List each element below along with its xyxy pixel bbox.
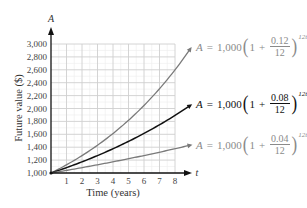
x-tick-label: 3 [95,176,100,186]
eq-fraction: 0.1212 [270,35,290,58]
eq-one: 1 [249,98,255,110]
eq-plus: + [259,139,265,151]
y-tick-label: 1,400 [27,142,48,152]
y-axis-arrow-icon [48,27,54,35]
x-tick-label: 5 [126,176,131,186]
equation-4-percent: A = 1,000 (1 + 0.0412 )12t [196,133,307,156]
eq-exponent: 12t [298,131,307,139]
x-tick-label: 7 [157,176,162,186]
eq-denominator: 12 [275,145,285,156]
x-axis-arrow-icon [184,170,192,176]
eq-variable: A [196,139,203,151]
y-tick-label: 1,800 [27,116,48,126]
y-tick-label: 2,600 [27,65,48,75]
eq-variable: A [196,98,203,110]
x-axis-variable: t [196,167,199,178]
y-tick-label: 2,000 [27,104,48,114]
eq-equals: = [207,98,213,110]
y-tick-label: 2,200 [27,91,48,101]
x-tick-label: 4 [111,176,116,186]
x-tick-label: 8 [173,176,178,186]
origin-point [49,171,52,174]
y-tick-label: 1,200 [27,155,48,165]
x-tick-labels: 12345678 [64,176,178,186]
y-axis-label: Future value ($) [13,74,25,142]
curve-arrow-icon [187,143,192,148]
eq-equals: = [207,139,213,151]
eq-variable: A [196,41,203,53]
eq-plus: + [259,41,265,53]
eq-fraction: 0.0812 [270,92,290,115]
grid [51,44,175,173]
eq-equals: = [207,41,213,53]
y-tick-label: 1,000 [27,168,48,178]
x-axis-label: Time (years) [86,187,140,199]
eq-numerator: 0.04 [270,133,290,145]
eq-principal: 1,000 [217,98,242,110]
y-tick-labels: 1,0001,2001,4001,6001,8002,0002,2002,400… [27,39,48,178]
eq-denominator: 12 [275,104,285,115]
eq-numerator: 0.12 [270,35,290,47]
eq-one: 1 [249,41,255,53]
curve-arrow-icon [187,47,192,52]
x-tick-label: 6 [142,176,147,186]
x-tick-label: 2 [80,176,85,186]
y-axis-variable: A [47,13,55,24]
y-tick-label: 3,000 [27,39,48,49]
y-tick-label: 2,800 [27,52,48,62]
eq-principal: 1,000 [217,41,242,53]
y-tick-label: 2,400 [27,78,48,88]
eq-numerator: 0.08 [270,92,290,104]
x-tick-label: 1 [64,176,69,186]
equation-12-percent: A = 1,000 (1 + 0.1212 )12t [196,35,307,58]
eq-denominator: 12 [275,47,285,58]
eq-fraction: 0.0412 [270,133,290,156]
eq-principal: 1,000 [217,139,242,151]
equation-8-percent: A = 1,000 (1 + 0.0812 )12t [196,92,307,115]
eq-exponent: 12t [298,90,307,98]
eq-plus: + [259,98,265,110]
eq-one: 1 [249,139,255,151]
eq-exponent: 12t [298,33,307,41]
curves [51,47,192,173]
y-tick-label: 1,600 [27,129,48,139]
